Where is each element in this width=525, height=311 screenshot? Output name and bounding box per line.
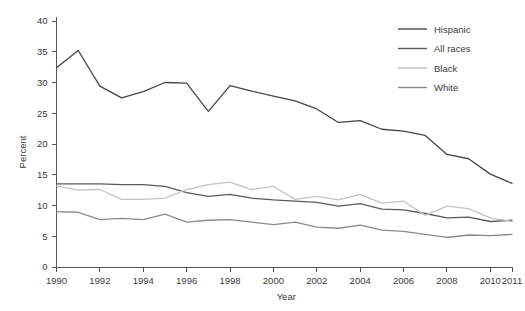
x-tick-label: 1994 [133,275,154,286]
x-tick-label: 1996 [176,275,197,286]
y-tick-label: 0 [42,261,47,272]
x-tick-label: 2010 [480,275,501,286]
x-tick-label: 1990 [46,275,67,286]
series-line-white [57,212,513,238]
y-axis-title: Percent [17,135,28,168]
legend-label-all-races: All races [434,43,471,54]
series-line-black [57,182,513,221]
chart-legend: HispanicAll racesBlackWhite [398,24,471,94]
legend-label-hispanic: Hispanic [434,24,471,35]
x-tick-label: 2011 [502,275,522,286]
x-tick-label: 2006 [393,275,414,286]
y-tick-label: 15 [37,169,48,180]
y-tick-label: 10 [37,200,48,211]
x-axis-title: Year [277,291,296,302]
y-tick-label: 5 [42,231,47,242]
x-tick-label: 1998 [219,275,240,286]
chart-container: 0510152025303540 19901992199419961998200… [0,0,525,311]
y-axis-ticks: 0510152025303540 [37,15,57,272]
y-tick-label: 20 [37,138,48,149]
legend-label-white: White [434,82,458,93]
x-tick-label: 1992 [89,275,110,286]
legend-label-black: Black [434,63,457,74]
y-tick-label: 40 [37,15,48,26]
x-tick-label: 2002 [306,275,327,286]
series-line-all-races [57,184,513,222]
y-tick-label: 25 [37,108,48,119]
x-tick-label: 2004 [350,275,371,286]
y-tick-label: 35 [37,46,48,57]
x-axis-ticks: 1990199219941996199820002002200420062008… [46,267,522,286]
line-chart: 0510152025303540 19901992199419961998200… [0,0,525,311]
x-tick-label: 2008 [436,275,457,286]
y-tick-label: 30 [37,77,48,88]
x-tick-label: 2000 [263,275,284,286]
series-lines [57,51,513,238]
